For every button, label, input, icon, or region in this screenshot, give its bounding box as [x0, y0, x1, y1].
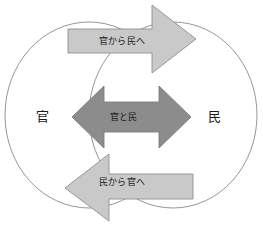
venn-diagram: 官 民 官から民へ 官と民 民から官へ — [0, 0, 263, 230]
arrow-top-label: 官から民へ — [99, 37, 145, 46]
arrow-bottom-label: 民から官へ — [99, 178, 145, 187]
circle-left-label: 官 — [36, 110, 49, 123]
circle-right-label: 民 — [208, 110, 221, 123]
arrow-middle-label: 官と民 — [110, 113, 138, 122]
